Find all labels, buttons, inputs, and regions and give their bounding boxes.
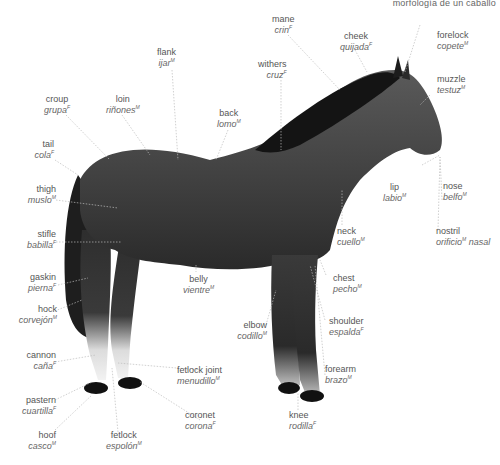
label-muzzle: muzzle testuzM: [437, 74, 466, 96]
label-fetlock: fetlock espolónM: [106, 430, 142, 452]
horse-illustration: [0, 0, 500, 465]
label-elbow: elbow codilloM: [225, 320, 267, 342]
label-croup: croup grupaF: [44, 94, 70, 116]
label-knee: knee rodillaF: [289, 410, 316, 432]
label-lip: lip labioM: [383, 182, 406, 204]
label-chest: chest pechoM: [333, 273, 362, 295]
label-cheek: cheek quijadaF: [340, 31, 372, 53]
label-tail: tail colaF: [30, 139, 54, 161]
label-fetlock-joint: fetlock joint menudilloM: [177, 365, 222, 387]
label-shoulder: shoulder espaldaF: [329, 316, 364, 338]
label-forelock: forelock copeteM: [437, 30, 469, 52]
label-nose: nose belfoM: [443, 181, 467, 203]
label-loin: loin riñonesM: [106, 94, 140, 116]
label-belly: belly vientreM: [183, 274, 214, 296]
label-stifle: stifle babillaF: [18, 229, 56, 251]
label-coronet: coronet coronaF: [185, 410, 216, 432]
label-mane: mane crinF: [272, 14, 295, 36]
label-neck: neck cuelloM: [337, 226, 365, 248]
label-hock: hock corvejónM: [5, 304, 57, 326]
label-flank: flank ijarM: [157, 47, 176, 69]
label-back: back lomoM: [217, 108, 241, 130]
label-withers: withers cruzF: [258, 59, 287, 81]
label-hoof: hoof cascoM: [14, 430, 56, 452]
label-forearm: forearm brazoM: [325, 364, 356, 386]
label-pastern: pastern cuartillaF: [10, 395, 56, 417]
label-nostril: nostril orificioM nasal: [436, 226, 490, 248]
label-cannon: cannon cañaF: [14, 350, 56, 372]
label-gaskin: gaskin piernaF: [16, 272, 56, 294]
label-thigh: thigh musloM: [20, 184, 56, 206]
